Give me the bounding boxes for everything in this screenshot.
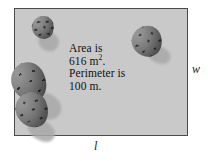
perimeter-label-line: Perimeter is <box>69 67 159 80</box>
area-value-period: . <box>102 55 105 67</box>
pine-cone-top-left-icon <box>14 10 74 60</box>
area-value: 616 m <box>69 55 99 67</box>
area-value-line: 616 m2. <box>69 55 159 68</box>
area-label-line: Area is <box>69 42 159 55</box>
perimeter-value-line: 100 m. <box>69 80 159 93</box>
length-label: l <box>94 139 97 154</box>
pine-cone-bottom-left-icon <box>10 60 70 145</box>
width-label: w <box>192 62 200 77</box>
measurement-annotation: Area is 616 m2. Perimeter is 100 m. <box>69 42 159 92</box>
rectangular-field-diagram: Area is 616 m2. Perimeter is 100 m. w l <box>0 0 208 161</box>
